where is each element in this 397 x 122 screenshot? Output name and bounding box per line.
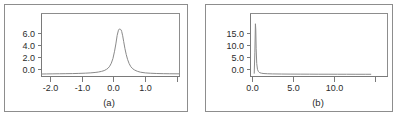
panel-caption-a: (a) [103,97,115,108]
y-tick-label-b-3: 15.0 [226,29,244,39]
y-tick-label-a-2: 4.0 [22,41,35,51]
panel-caption-b: (b) [312,97,324,108]
x-tick-label-a-2: 0.0 [107,83,120,93]
panel-b-plot: 0.0 5.0 10.0 15.0 0.0 5.0 10.0 (b) [206,5,394,113]
panel-a: 0.0 2.0 4.0 6.0 -2.0 -1.0 0.0 1.0 (a) [4,4,188,112]
x-tick-label-b-1: 5.0 [287,83,300,93]
x-tick-label-a-3: 1.0 [139,83,152,93]
y-tick-label-a-1: 2.0 [22,53,35,63]
y-tick-label-b-2: 10.0 [226,41,244,51]
y-tick-label-a-0: 0.0 [22,65,35,75]
x-tick-label-a-1: -1.0 [75,83,91,93]
x-tick-label-b-0: 0.0 [246,83,259,93]
x-tick-label-b-2: 10.0 [326,83,344,93]
plot-frame-b [251,14,388,77]
panel-a-plot: 0.0 2.0 4.0 6.0 -2.0 -1.0 0.0 1.0 (a) [5,5,189,113]
y-tick-label-b-0: 0.0 [231,65,244,75]
y-tick-label-a-3: 6.0 [22,29,35,39]
panel-b: 0.0 5.0 10.0 15.0 0.0 5.0 10.0 (b) [205,4,393,112]
x-tick-label-a-0: -2.0 [43,83,59,93]
plot-frame-a [42,14,180,77]
figure-container: 0.0 2.0 4.0 6.0 -2.0 -1.0 0.0 1.0 (a) [0,0,397,122]
y-tick-label-b-1: 5.0 [231,53,244,63]
